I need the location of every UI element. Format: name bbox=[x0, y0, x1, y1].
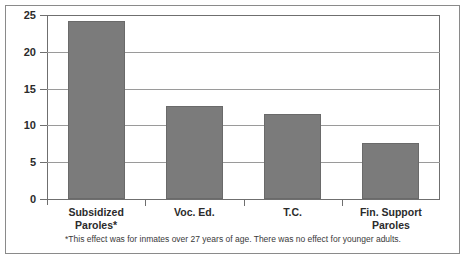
y-tick-mark bbox=[40, 162, 47, 163]
bar bbox=[362, 143, 419, 199]
bar bbox=[68, 21, 125, 199]
y-tick-label: 20 bbox=[24, 46, 36, 58]
y-tick-mark bbox=[40, 89, 47, 90]
bar bbox=[166, 106, 223, 199]
y-tick-mark bbox=[40, 199, 47, 200]
x-tick-mark bbox=[342, 199, 343, 206]
y-tick-mark bbox=[40, 15, 47, 16]
y-tick-mark bbox=[40, 125, 47, 126]
plot-top-border bbox=[47, 15, 440, 16]
x-tick-mark bbox=[244, 199, 245, 206]
y-tick-label: 25 bbox=[24, 9, 36, 21]
x-tick-label: Fin. Support Paroles bbox=[342, 206, 440, 231]
x-tick-label: Subsidized Paroles* bbox=[47, 206, 145, 231]
plot-right-border bbox=[439, 15, 440, 199]
x-axis-line bbox=[40, 199, 440, 200]
x-tick-mark bbox=[145, 199, 146, 206]
y-tick-label: 5 bbox=[30, 156, 36, 168]
y-tick-label: 15 bbox=[24, 83, 36, 95]
plot-area: 0510152025 bbox=[47, 15, 440, 199]
x-tick-label: T.C. bbox=[244, 206, 342, 219]
chart-footnote: *This effect was for inmates over 27 yea… bbox=[0, 234, 466, 244]
y-tick-mark bbox=[40, 52, 47, 53]
bar bbox=[264, 114, 321, 199]
y-tick-label: 0 bbox=[30, 193, 36, 205]
y-tick-label: 10 bbox=[24, 119, 36, 131]
x-tick-label: Voc. Ed. bbox=[145, 206, 243, 219]
bar-chart-figure: 0510152025 Subsidized Paroles*Voc. Ed.T.… bbox=[0, 0, 466, 260]
